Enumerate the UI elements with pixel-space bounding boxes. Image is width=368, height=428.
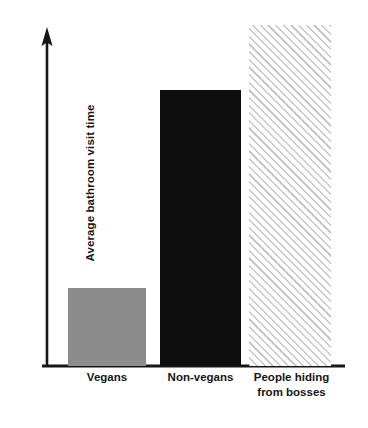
x-tick-label-people-hiding: People hiding from bosses — [243, 370, 340, 399]
x-tick-label-people-hiding-line2: from bosses — [243, 385, 340, 400]
x-tick-label-people-hiding-line1: People hiding — [254, 371, 329, 383]
x-tick-label-vegans: Vegans — [68, 370, 146, 385]
x-tick-label-non-vegans-line1: Non-vegans — [168, 371, 234, 383]
x-tick-label-non-vegans: Non-vegans — [152, 370, 249, 385]
bar-people-hiding-from-bosses — [249, 25, 331, 366]
bar-non-vegans — [160, 90, 241, 366]
plot-area — [0, 0, 368, 366]
x-axis-labels: Vegans Non-vegans People hiding from bos… — [0, 370, 368, 428]
x-tick-label-vegans-line1: Vegans — [87, 371, 127, 383]
bar-vegans — [68, 288, 146, 366]
bar-chart: Average bathroom visit time Vegans Non-v… — [0, 0, 368, 428]
